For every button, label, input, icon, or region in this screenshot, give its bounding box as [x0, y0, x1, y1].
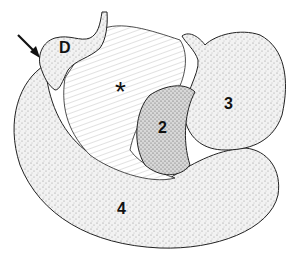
anatomical-drawing [0, 0, 293, 258]
label-2: 2 [158, 120, 167, 136]
label-d: D [59, 40, 71, 56]
structure-3 [182, 32, 286, 150]
label-4: 4 [117, 201, 126, 217]
label-asterisk: * [115, 78, 126, 106]
label-3: 3 [224, 96, 233, 112]
arrow-icon [18, 35, 40, 58]
